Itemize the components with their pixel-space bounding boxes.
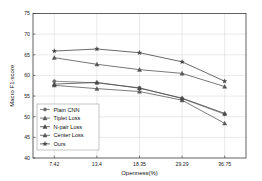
marker-circle xyxy=(43,108,46,111)
x-tick-label: 7.42 xyxy=(49,161,59,167)
marker-triangle xyxy=(223,121,227,125)
chart-figure: 40455055606570757.4213.418.3529.2936.75O… xyxy=(0,0,262,181)
chart-legend: Plain CNNTiplet LossN-pair LossCenter Lo… xyxy=(37,104,99,150)
x-tick-label: 36.75 xyxy=(218,161,231,167)
y-tick-label: 60 xyxy=(24,72,30,78)
legend-label: N-pair Loss xyxy=(54,124,83,130)
y-tick-label: 75 xyxy=(24,10,30,16)
y-tick-label: 65 xyxy=(24,52,30,58)
x-tick-label: 18.35 xyxy=(133,161,146,167)
x-tick-label: 13.4 xyxy=(92,161,102,167)
line-chart: 40455055606570757.4213.418.3529.2936.75O… xyxy=(0,0,262,181)
y-tick-label: 70 xyxy=(24,31,30,37)
y-tick-label: 50 xyxy=(24,114,30,120)
y-tick-label: 55 xyxy=(24,93,30,99)
x-axis-title: Openness(%) xyxy=(121,170,158,176)
legend-label: Plain CNN xyxy=(54,107,80,113)
y-tick-label: 45 xyxy=(24,134,30,140)
legend-label: Center Loss xyxy=(54,132,84,138)
legend-marker xyxy=(43,108,46,111)
x-tick-label: 29.29 xyxy=(176,161,189,167)
plot-container: 40455055606570757.4213.418.3529.2936.75O… xyxy=(0,0,262,181)
y-tick-label: 40 xyxy=(24,155,30,161)
legend-label: Ours xyxy=(54,141,66,147)
y-axis-title: Macro F1-score xyxy=(9,64,15,107)
data-point xyxy=(223,121,227,125)
legend-label: Tiplet Loss xyxy=(54,115,81,121)
